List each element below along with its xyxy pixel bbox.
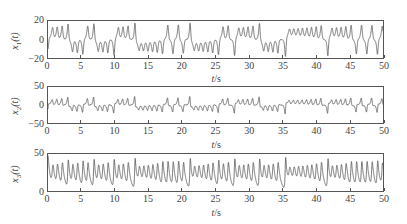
x-tick-mark	[47, 188, 48, 191]
x-tick-mark	[181, 55, 182, 58]
x-tick-label: 40	[307, 126, 327, 136]
x-tick-label: 20	[172, 61, 192, 71]
y-tick-label: 50	[14, 81, 44, 91]
x-tick-label: 35	[273, 61, 293, 71]
x-tick-label: 25	[206, 61, 226, 71]
x-tick-mark	[282, 120, 283, 123]
x-tick-mark	[249, 188, 250, 191]
x-tick-mark	[215, 55, 216, 58]
x-tick-mark	[249, 55, 250, 58]
x-tick-label: 15	[138, 126, 158, 136]
x-tick-mark	[384, 120, 385, 123]
x-tick-mark	[350, 55, 351, 58]
x-tick-mark	[80, 120, 81, 123]
x-tick-label: 15	[138, 61, 158, 71]
x-tick-label: 15	[138, 194, 158, 204]
x-tick-mark	[282, 55, 283, 58]
x-tick-mark	[80, 55, 81, 58]
series-line-2	[48, 87, 383, 123]
x-tick-label: 30	[239, 126, 259, 136]
x-tick-mark	[316, 120, 317, 123]
y-axis-label: x3(t)	[9, 159, 23, 189]
x-tick-mark	[316, 188, 317, 191]
x-tick-mark	[350, 188, 351, 191]
x-tick-label: 10	[104, 194, 124, 204]
x-axis-label: t/s	[212, 207, 221, 218]
x-tick-mark	[148, 120, 149, 123]
x-tick-label: 10	[104, 126, 124, 136]
x-tick-label: 50	[374, 194, 394, 204]
y-axis-label: x1(t)	[9, 26, 23, 56]
x-axis-label: t/s	[212, 73, 221, 84]
x-tick-label: 25	[206, 194, 226, 204]
x-tick-label: 5	[71, 126, 91, 136]
series-line-3	[48, 154, 383, 191]
x-tick-mark	[114, 120, 115, 123]
x-tick-mark	[316, 55, 317, 58]
x-tick-label: 45	[340, 194, 360, 204]
x-tick-mark	[384, 188, 385, 191]
x-tick-mark	[249, 120, 250, 123]
x-tick-mark	[114, 55, 115, 58]
x-axis-label: t/s	[212, 139, 221, 150]
x-tick-mark	[148, 188, 149, 191]
x-tick-mark	[47, 120, 48, 123]
x-tick-label: 25	[206, 126, 226, 136]
x-tick-label: 10	[104, 61, 124, 71]
x-tick-mark	[80, 188, 81, 191]
x-tick-mark	[47, 55, 48, 58]
x-tick-mark	[181, 188, 182, 191]
y-axis-label: x2(t)	[9, 91, 23, 121]
x-tick-label: 40	[307, 61, 327, 71]
x-tick-mark	[148, 55, 149, 58]
y-tick-label: 50	[14, 148, 44, 158]
x-tick-label: 40	[307, 194, 327, 204]
x-tick-label: 45	[340, 61, 360, 71]
x-tick-label: 35	[273, 126, 293, 136]
y-tick-label: 20	[14, 15, 44, 25]
x-tick-label: 30	[239, 194, 259, 204]
x-tick-mark	[282, 188, 283, 191]
x-tick-mark	[350, 120, 351, 123]
x-tick-label: 5	[71, 194, 91, 204]
x-tick-label: 45	[340, 126, 360, 136]
x-tick-label: 35	[273, 194, 293, 204]
x-tick-mark	[181, 120, 182, 123]
x-tick-label: 20	[172, 194, 192, 204]
x-tick-mark	[215, 188, 216, 191]
x-tick-mark	[215, 120, 216, 123]
x-tick-label: 50	[374, 126, 394, 136]
x-tick-label: 50	[374, 61, 394, 71]
x-tick-label: 20	[172, 126, 192, 136]
x-tick-mark	[114, 188, 115, 191]
x-tick-label: 5	[71, 61, 91, 71]
x-tick-label: 30	[239, 61, 259, 71]
series-line-1	[48, 21, 383, 58]
x-tick-mark	[384, 55, 385, 58]
